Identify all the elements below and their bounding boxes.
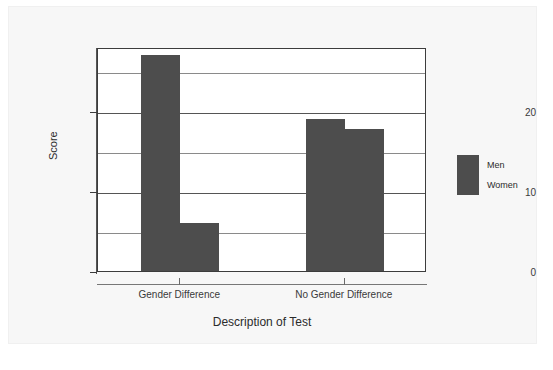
x-axis-tick xyxy=(179,278,180,285)
y-axis-title: Score xyxy=(47,131,59,160)
chart-screenshot: Score 01020 Gender DifferenceNo Gender D… xyxy=(0,0,553,370)
y-axis-tick xyxy=(90,112,97,113)
bar-men-1 xyxy=(306,119,345,271)
chart-panel: Score 01020 Gender DifferenceNo Gender D… xyxy=(8,6,537,344)
y-axis-tick-label: 20 xyxy=(476,107,536,118)
x-axis-line xyxy=(97,284,427,285)
legend-item-men: Men xyxy=(457,155,518,175)
chart-legend: Men Women xyxy=(457,155,518,195)
bars-layer xyxy=(98,49,425,271)
x-axis-tick-label: No Gender Difference xyxy=(264,289,424,300)
plot-area xyxy=(97,48,426,272)
y-axis-tick xyxy=(90,192,97,193)
bar-women-1 xyxy=(345,129,384,271)
legend-label-women: Women xyxy=(487,180,518,190)
legend-swatch-women xyxy=(457,175,479,195)
bar-men-0 xyxy=(141,55,180,271)
legend-item-women: Women xyxy=(457,175,518,195)
x-axis-tick xyxy=(344,278,345,285)
y-axis-tick xyxy=(90,272,97,273)
legend-swatch-men xyxy=(457,155,479,175)
bar-women-0 xyxy=(180,223,219,271)
legend-label-men: Men xyxy=(487,160,505,170)
x-axis-tick-label: Gender Difference xyxy=(99,289,259,300)
y-axis-tick-label: 0 xyxy=(476,267,536,278)
x-axis-title: Description of Test xyxy=(97,315,427,329)
